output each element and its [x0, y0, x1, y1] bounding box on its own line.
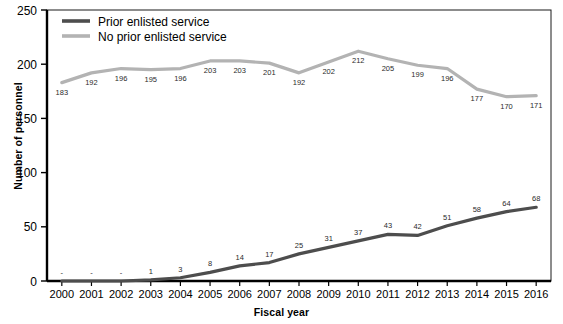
data-point-label: 212: [352, 56, 365, 65]
x-axis-tick-label: 2001: [79, 288, 103, 300]
x-axis-tick-label: 2015: [494, 288, 518, 300]
data-point-label: 199: [411, 70, 424, 79]
data-point-label: 202: [322, 67, 335, 76]
data-point-label: 14: [236, 253, 244, 262]
data-point-label: 8: [208, 259, 212, 268]
x-axis-tick-label: 2008: [287, 288, 311, 300]
data-point-label: 192: [293, 78, 306, 87]
y-axis-title: Number of personnel: [12, 66, 24, 206]
data-point-label: 196: [441, 74, 454, 83]
chart-container: 0501001502002502000200120022003200420052…: [0, 0, 563, 324]
x-axis-title: Fiscal year: [0, 306, 563, 318]
data-point-label: 31: [324, 234, 332, 243]
legend-label: Prior enlisted service: [98, 15, 210, 29]
data-point-label: 183: [56, 88, 69, 97]
x-axis-tick-label: 2006: [227, 288, 251, 300]
data-point-label: 203: [233, 66, 246, 75]
x-axis-tick-label: 2011: [376, 288, 400, 300]
legend-label: No prior enlisted service: [98, 30, 227, 44]
data-point-label: 192: [85, 78, 98, 87]
data-point-label: 196: [174, 74, 187, 83]
y-axis-tick-label: 250: [17, 4, 37, 18]
x-axis-tick-label: 2003: [139, 288, 163, 300]
x-axis-tick-label: 2013: [435, 288, 459, 300]
data-point-label: 43: [384, 221, 392, 230]
data-point-label: 201: [263, 68, 276, 77]
data-point-label: 171: [530, 101, 543, 110]
data-point-label: 58: [473, 205, 481, 214]
x-axis-tick-label: 2010: [346, 288, 370, 300]
data-point-label: 42: [413, 222, 421, 231]
data-point-label: 64: [502, 199, 510, 208]
x-axis-tick-label: 2002: [109, 288, 133, 300]
x-axis-tick-label: 2016: [524, 288, 548, 300]
x-axis-tick-label: 2014: [465, 288, 489, 300]
x-axis-tick-label: 2000: [50, 288, 74, 300]
line-chart-plot: 0501001502002502000200120022003200420052…: [0, 0, 563, 324]
data-point-label: 170: [500, 102, 513, 111]
x-axis-tick-label: 2005: [198, 288, 222, 300]
data-point-label: 68: [532, 194, 540, 203]
data-point-label: 203: [204, 66, 217, 75]
data-point-label: 1: [149, 267, 153, 276]
data-point-label: 196: [115, 74, 128, 83]
x-axis-tick-label: 2009: [316, 288, 340, 300]
x-axis-tick-label: 2004: [168, 288, 192, 300]
y-axis-tick-label: 50: [24, 220, 38, 234]
data-point-label: 51: [443, 213, 451, 222]
data-point-label: 177: [471, 94, 484, 103]
data-point-label: 3: [178, 265, 182, 274]
y-axis-tick-label: 0: [30, 275, 37, 289]
data-point-label: 37: [354, 228, 362, 237]
data-point-label: 205: [382, 64, 395, 73]
x-axis-tick-label: 2012: [405, 288, 429, 300]
data-point-label: 25: [295, 241, 303, 250]
data-point-label: 17: [265, 250, 273, 259]
x-axis-tick-label: 2007: [257, 288, 281, 300]
data-point-label: 195: [145, 75, 158, 84]
